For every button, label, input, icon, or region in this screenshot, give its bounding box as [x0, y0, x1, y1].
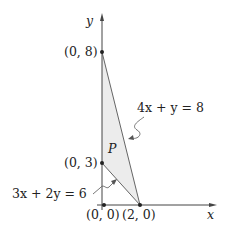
- y-axis-arrow-icon: [100, 13, 104, 21]
- pointer-arrow-icon: [128, 135, 134, 140]
- feasible-region-diagram: y x (0, 8) (0, 3) (0, 0) (2, 0) P 4x + y…: [0, 0, 231, 235]
- y-axis-label: y: [85, 13, 94, 28]
- region-label: P: [107, 141, 117, 156]
- pointer-squiggle-3x-2y-6: [93, 182, 114, 194]
- point-0-8: [100, 50, 104, 54]
- equation-label-3x-2y-6: 3x + 2y = 6: [12, 186, 87, 201]
- x-axis-label: x: [207, 207, 214, 222]
- label-point-0-3: (0, 3): [64, 155, 98, 170]
- label-point-2-0: (2, 0): [122, 207, 156, 222]
- label-point-0-0: (0, 0): [86, 207, 120, 222]
- point-0-3: [100, 161, 104, 165]
- label-point-0-8: (0, 8): [64, 44, 98, 59]
- pointer-squiggle-4x-y-8: [132, 117, 144, 138]
- equation-label-4x-y-8: 4x + y = 8: [137, 100, 204, 115]
